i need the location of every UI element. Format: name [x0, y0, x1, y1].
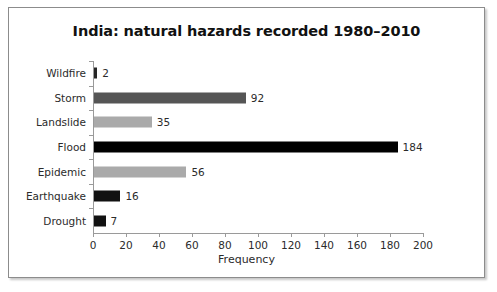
x-axis-tick: [390, 233, 391, 237]
x-axis-tick-label: 80: [218, 239, 231, 251]
x-axis-tick: [258, 233, 259, 237]
category-label: Landslide: [36, 116, 86, 128]
x-axis-tick: [126, 233, 127, 237]
bar-value-label: 16: [125, 190, 138, 202]
x-axis-tick-label: 40: [152, 239, 165, 251]
chart-title: India: natural hazards recorded 1980–201…: [9, 23, 484, 39]
bar: [94, 191, 120, 202]
x-axis-tick-label: 0: [90, 239, 97, 251]
bar: [94, 215, 106, 226]
category-label: Earthquake: [26, 190, 86, 202]
category-label: Wildfire: [46, 67, 86, 79]
bar: [94, 92, 246, 103]
bar-row: Storm92: [93, 86, 423, 111]
x-axis-tick: [192, 233, 193, 237]
x-axis-tick: [159, 233, 160, 237]
y-axis-tick: [89, 61, 93, 62]
bar-row: Flood184: [93, 135, 423, 160]
bar: [94, 117, 152, 128]
y-axis-tick: [89, 135, 93, 136]
x-axis-tick: [93, 233, 94, 237]
bar-row: Wildfire2: [93, 61, 423, 86]
y-axis-tick: [89, 110, 93, 111]
bar: [94, 68, 97, 79]
x-axis-tick: [225, 233, 226, 237]
bar: [94, 141, 398, 152]
x-axis-tick-label: 100: [248, 239, 268, 251]
x-axis-tick-label: 160: [347, 239, 367, 251]
y-axis-tick: [89, 184, 93, 185]
x-axis-title: Frequency: [9, 253, 484, 266]
x-axis-tick: [291, 233, 292, 237]
y-axis-tick: [89, 208, 93, 209]
bar-row: Earthquake16: [93, 184, 423, 209]
bar-value-label: 56: [191, 166, 204, 178]
x-axis-tick-label: 140: [314, 239, 334, 251]
x-axis-tick-label: 20: [119, 239, 132, 251]
category-label: Drought: [43, 215, 86, 227]
figure-frame: India: natural hazards recorded 1980–201…: [8, 7, 485, 278]
category-label: Flood: [58, 141, 86, 153]
bar-value-label: 35: [157, 116, 170, 128]
category-label: Storm: [54, 92, 86, 104]
x-axis-tick-label: 120: [281, 239, 301, 251]
y-axis-tick: [89, 159, 93, 160]
plot-area: Wildfire2Storm92Landslide35Flood184Epide…: [93, 61, 423, 233]
x-axis-tick: [357, 233, 358, 237]
bar-value-label: 7: [111, 215, 118, 227]
bar-row: Landslide35: [93, 110, 423, 135]
x-axis-tick-label: 200: [413, 239, 433, 251]
category-label: Epidemic: [38, 166, 86, 178]
bar-value-label: 184: [403, 141, 423, 153]
bar: [94, 166, 186, 177]
bar-value-label: 92: [251, 92, 264, 104]
bar-value-label: 2: [102, 67, 109, 79]
x-axis-tick: [423, 233, 424, 237]
bar-row: Epidemic56: [93, 159, 423, 184]
x-axis-tick: [324, 233, 325, 237]
y-axis-tick: [89, 86, 93, 87]
bar-row: Drought7: [93, 208, 423, 233]
x-axis-tick-label: 180: [380, 239, 400, 251]
x-axis-tick-label: 60: [185, 239, 198, 251]
